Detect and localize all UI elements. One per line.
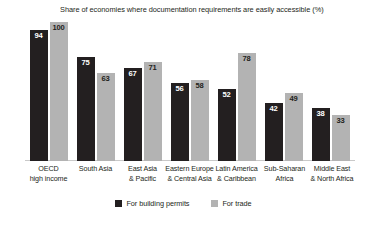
bar-value-label: 52 — [218, 91, 236, 99]
bar-building-permits[interactable]: 94 — [30, 30, 48, 161]
bar-group: 52 78 — [213, 22, 260, 161]
bar-group: 56 58 — [166, 22, 213, 161]
x-axis-label-line: & North Africa — [303, 174, 361, 184]
bar-value-label: 58 — [191, 82, 209, 90]
x-axis-label-line: high income — [22, 174, 75, 184]
bar-trade[interactable]: 78 — [238, 53, 256, 161]
bar-group: 38 33 — [307, 22, 354, 161]
bar-trade[interactable]: 63 — [97, 73, 115, 161]
x-axis-label-line: Middle East — [303, 164, 361, 174]
chart-legend: For building permits For trade — [0, 199, 367, 208]
bar-value-label: 33 — [332, 117, 350, 125]
bar-value-label: 67 — [124, 70, 142, 78]
bar-building-permits[interactable]: 67 — [124, 68, 142, 161]
bar-trade[interactable]: 58 — [191, 80, 209, 161]
legend-item-trade[interactable]: For trade — [211, 199, 251, 208]
legend-swatch-icon — [115, 200, 122, 207]
legend-item-building-permits[interactable]: For building permits — [115, 199, 189, 208]
bar-group: 75 63 — [72, 22, 119, 161]
x-axis-label-line: Latin America — [209, 164, 264, 174]
bar-building-permits[interactable]: 52 — [218, 89, 236, 161]
bar-group: 42 49 — [260, 22, 307, 161]
legend-item-label: For trade — [222, 199, 251, 208]
plot-area: 94 100 75 63 67 71 5 — [25, 22, 360, 161]
legend-item-label: For building permits — [126, 199, 189, 208]
bar-building-permits[interactable]: 75 — [77, 57, 95, 161]
bar-group: 67 71 — [119, 22, 166, 161]
bar-value-label: 75 — [77, 59, 95, 67]
bar-value-label: 38 — [312, 110, 330, 118]
chart-title: Share of economies where documentation r… — [60, 5, 360, 15]
x-axis-label-line: & Caribbean — [209, 174, 264, 184]
bar-value-label: 56 — [171, 85, 189, 93]
x-axis-labels: OECD high income South Asia East Asia & … — [25, 164, 355, 194]
bar-value-label: 94 — [30, 32, 48, 40]
legend-swatch-icon — [211, 200, 218, 207]
bar-building-permits[interactable]: 38 — [312, 108, 330, 161]
chart-figure: Share of economies where documentation r… — [0, 0, 367, 225]
bar-value-label: 71 — [144, 64, 162, 72]
bar-value-label: 78 — [238, 55, 256, 63]
bar-value-label: 49 — [285, 95, 303, 103]
bar-value-label: 100 — [50, 24, 68, 32]
bar-trade[interactable]: 100 — [50, 22, 68, 161]
x-axis-label-oecd: OECD high income — [22, 164, 75, 183]
bar-value-label: 42 — [265, 105, 283, 113]
x-axis-label-latin-america-caribbean: Latin America & Caribbean — [209, 164, 264, 183]
bar-trade[interactable]: 71 — [144, 62, 162, 161]
x-axis-label-line: OECD — [22, 164, 75, 174]
bar-trade[interactable]: 49 — [285, 93, 303, 161]
x-axis-label-south-asia: South Asia — [69, 164, 122, 174]
x-axis-label-middle-east-north-africa: Middle East & North Africa — [303, 164, 361, 183]
bar-building-permits[interactable]: 42 — [265, 103, 283, 161]
bar-trade[interactable]: 33 — [332, 115, 350, 161]
bar-value-label: 63 — [97, 75, 115, 83]
x-axis-label-line: South Asia — [69, 164, 122, 174]
bar-group: 94 100 — [25, 22, 72, 161]
bar-building-permits[interactable]: 56 — [171, 83, 189, 161]
